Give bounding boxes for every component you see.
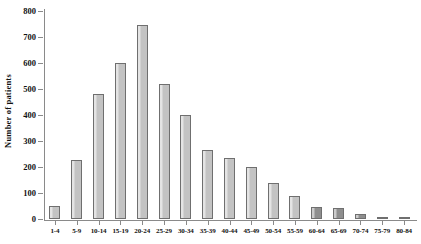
x-tick-mark: [99, 221, 100, 225]
bar-80-84: [399, 217, 410, 219]
bar-1-4: [49, 206, 60, 219]
bar-75-79: [377, 217, 388, 219]
x-tick-label-5-9: 5-9: [72, 227, 81, 235]
bar-70-74: [355, 214, 366, 219]
y-tick-mark: [38, 141, 43, 142]
bar-slot: [66, 11, 88, 219]
x-tick-label-45-49: 45-49: [243, 227, 259, 235]
x-tick-label-55-59: 55-59: [287, 227, 303, 235]
x-tick-label-15-19: 15-19: [112, 227, 128, 235]
bar-60-64: [311, 207, 322, 219]
bar-slot: [240, 11, 262, 219]
x-tick-mark: [382, 221, 383, 225]
bar-slot: [393, 11, 415, 219]
y-tick-label: 400: [6, 110, 36, 120]
y-tick-mark: [38, 11, 43, 12]
x-tick-label-25-29: 25-29: [156, 227, 172, 235]
bar-slot: [328, 11, 350, 219]
bar-slot: [350, 11, 372, 219]
bar-slot: [306, 11, 328, 219]
x-tick-label-50-54: 50-54: [265, 227, 281, 235]
bar-slot: [44, 11, 66, 219]
bar-slot: [131, 11, 153, 219]
bar-55-59: [289, 196, 300, 219]
bar-chart-figure: Number of patients 010020030040050060070…: [0, 0, 421, 244]
y-tick-label: 100: [6, 188, 36, 198]
y-tick-label: 300: [6, 136, 36, 146]
bar-50-54: [268, 183, 279, 219]
x-tick-mark: [273, 221, 274, 225]
x-tick-label-35-39: 35-39: [200, 227, 216, 235]
x-tick-mark: [360, 221, 361, 225]
y-tick-mark: [38, 167, 43, 168]
bar-45-49: [246, 167, 257, 219]
y-tick-mark: [38, 219, 43, 220]
x-tick-mark: [295, 221, 296, 225]
bar-10-14: [93, 94, 104, 219]
bar-30-34: [180, 115, 191, 219]
x-tick-label-80-84: 80-84: [396, 227, 412, 235]
x-tick-label-70-74: 70-74: [353, 227, 369, 235]
x-tick-mark: [317, 221, 318, 225]
y-tick-mark: [38, 37, 43, 38]
x-tick-mark: [55, 221, 56, 225]
y-tick-label: 700: [6, 32, 36, 42]
bar-slot: [153, 11, 175, 219]
x-tick-mark: [77, 221, 78, 225]
x-tick-label-1-4: 1-4: [50, 227, 59, 235]
y-tick-mark: [38, 115, 43, 116]
x-tick-label-30-34: 30-34: [178, 227, 194, 235]
bar-slot: [371, 11, 393, 219]
bar-slot: [197, 11, 219, 219]
bar-35-39: [202, 150, 213, 219]
x-tick-label-65-69: 65-69: [331, 227, 347, 235]
bar-5-9: [71, 160, 82, 219]
y-tick-mark: [38, 193, 43, 194]
x-tick-label-10-14: 10-14: [91, 227, 107, 235]
y-tick-label: 600: [6, 58, 36, 68]
x-tick-mark: [251, 221, 252, 225]
bar-slot: [88, 11, 110, 219]
bar-15-19: [115, 63, 126, 219]
bar-slot: [175, 11, 197, 219]
x-tick-mark: [404, 221, 405, 225]
y-tick-label: 800: [6, 6, 36, 16]
x-tick-mark: [208, 221, 209, 225]
x-tick-mark: [142, 221, 143, 225]
bar-25-29: [159, 84, 170, 219]
x-tick-label-40-44: 40-44: [222, 227, 238, 235]
bar-40-44: [224, 158, 235, 219]
bar-65-69: [333, 208, 344, 219]
plot-area: [44, 11, 415, 219]
x-tick-label-20-24: 20-24: [134, 227, 150, 235]
bar-slot: [262, 11, 284, 219]
y-tick-mark: [38, 63, 43, 64]
x-tick-label-75-79: 75-79: [374, 227, 390, 235]
x-tick-mark: [230, 221, 231, 225]
y-tick-label: 500: [6, 84, 36, 94]
bar-slot: [219, 11, 241, 219]
bar-20-24: [137, 25, 148, 219]
x-tick-mark: [164, 221, 165, 225]
y-tick-label: 200: [6, 162, 36, 172]
bar-slot: [109, 11, 131, 219]
x-tick-label-60-64: 60-64: [309, 227, 325, 235]
x-tick-mark: [339, 221, 340, 225]
bar-slot: [284, 11, 306, 219]
x-tick-mark: [186, 221, 187, 225]
x-tick-mark: [120, 221, 121, 225]
y-tick-label: 0: [6, 214, 36, 224]
y-tick-mark: [38, 89, 43, 90]
